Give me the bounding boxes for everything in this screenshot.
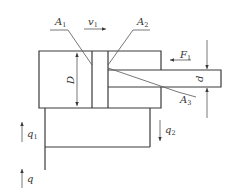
leader-A1: [50, 30, 92, 65]
label-v1: v1: [88, 16, 98, 29]
cylinder-diagram: D d A1 v1 A2 F1 A3 q1 q2 q: [0, 0, 226, 196]
label-A3: A3: [179, 94, 191, 107]
leader-A2: [108, 30, 150, 65]
label-A1: A1: [54, 16, 66, 29]
label-d: d: [194, 76, 205, 82]
label-q: q: [27, 173, 33, 184]
label-A2: A2: [136, 16, 148, 29]
piston: [92, 51, 108, 108]
label-q2: q2: [165, 124, 176, 137]
pipe-circuit: [45, 108, 150, 170]
leader-A3: [108, 68, 196, 97]
label-q1: q1: [27, 128, 38, 141]
label-D: D: [65, 76, 76, 85]
